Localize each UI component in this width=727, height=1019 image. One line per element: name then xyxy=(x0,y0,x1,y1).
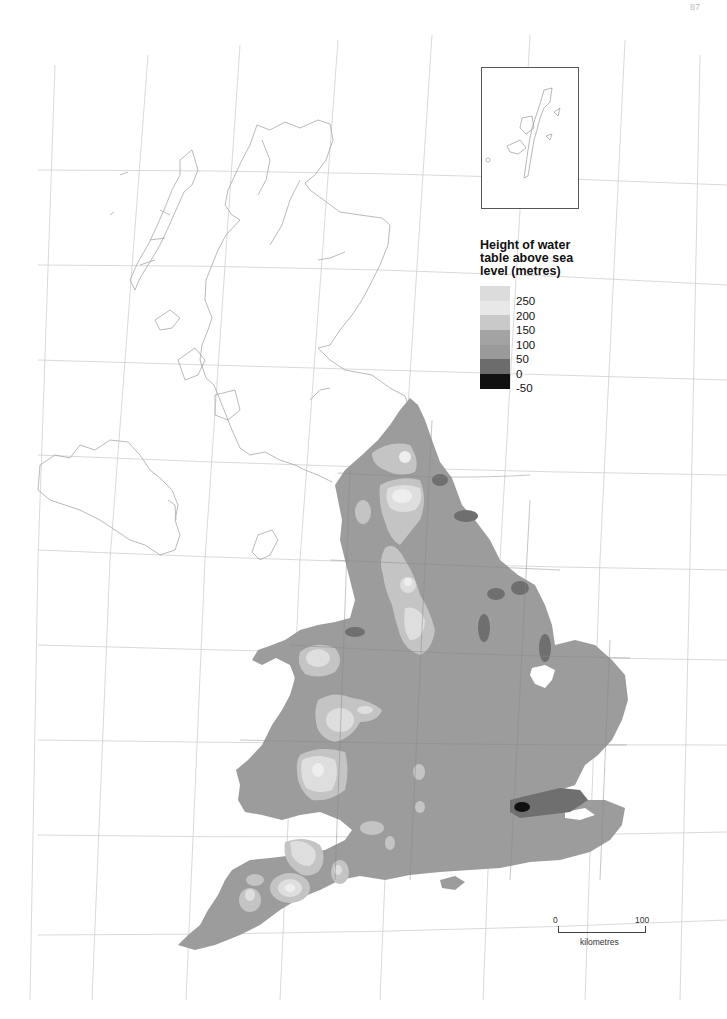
page-number: 87 xyxy=(690,2,700,12)
map-canvas xyxy=(0,0,727,1019)
legend-label: 100 xyxy=(516,338,535,353)
shetland-outline xyxy=(482,68,578,208)
legend-swatches xyxy=(480,286,510,389)
legend-swatch-50 xyxy=(480,345,510,360)
shetland-inset xyxy=(481,67,579,209)
legend-title: Height of water table above sea level (m… xyxy=(480,239,590,278)
legend-label: -50 xyxy=(516,381,535,396)
legend-label: 0 xyxy=(516,367,535,382)
northern-ireland-outline xyxy=(38,440,180,555)
legend-swatch-150 xyxy=(480,315,510,330)
scale-unit-label: kilometres xyxy=(580,937,619,947)
legend-swatch-neg50 xyxy=(480,374,510,389)
legend-label: 200 xyxy=(516,309,535,324)
isle-of-man-outline xyxy=(252,530,278,560)
legend-label: 250 xyxy=(516,294,535,309)
legend-swatch-200 xyxy=(480,301,510,316)
scale-bar-line xyxy=(558,926,646,933)
legend-swatch-0 xyxy=(480,359,510,374)
scale-end-label: 100 xyxy=(635,915,649,925)
scale-start-label: 0 xyxy=(553,915,558,925)
legend-swatch-250 xyxy=(480,286,510,301)
scotland-outline xyxy=(110,120,410,482)
legend-label: 150 xyxy=(516,323,535,338)
below-sea-level-zone xyxy=(514,802,530,812)
legend-title-line-3: level (metres) xyxy=(480,265,590,278)
legend-labels: 250 200 150 100 50 0 -50 xyxy=(516,294,535,396)
legend-swatch-100 xyxy=(480,330,510,345)
legend-label: 50 xyxy=(516,352,535,367)
